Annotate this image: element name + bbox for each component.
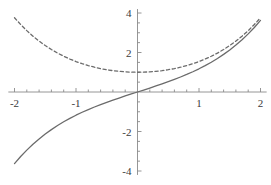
- y-tick-label: -4: [122, 166, 131, 177]
- x-tick-label: 2: [258, 98, 264, 109]
- y-tick-label: 2: [126, 47, 132, 58]
- y-tick-label: -2: [122, 126, 131, 137]
- y-tick-label: 4: [126, 8, 132, 19]
- x-tick-label: -1: [71, 98, 80, 109]
- x-tick-label: 1: [196, 98, 202, 109]
- x-tick-label: -2: [10, 98, 19, 109]
- chart-figure: -2-112-4-224: [0, 0, 271, 185]
- plot-canvas: [0, 0, 271, 185]
